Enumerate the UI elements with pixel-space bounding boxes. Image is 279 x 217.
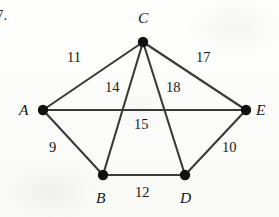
graph-node-e xyxy=(241,105,251,115)
graph-node-a xyxy=(38,105,48,115)
graph-node-c xyxy=(138,37,148,47)
graph-edge-c-e xyxy=(143,42,246,110)
edge-weight-a-c: 11 xyxy=(67,50,81,65)
vertex-label-a: A xyxy=(19,102,28,118)
edge-weight-d-e: 10 xyxy=(222,140,237,155)
graph-figure: 7. CAEBD111714181591012 xyxy=(0,0,279,217)
edge-weight-c-d: 18 xyxy=(166,80,181,95)
graph-node-d xyxy=(180,170,190,180)
vertex-label-d: D xyxy=(180,190,191,206)
edge-weight-c-b: 14 xyxy=(105,80,120,95)
graph-edge-c-b xyxy=(103,42,143,175)
graph-node-b xyxy=(98,170,108,180)
graph-edge-c-d xyxy=(143,42,185,175)
edge-weight-a-e: 15 xyxy=(134,117,149,132)
graph-edge-d-e xyxy=(185,110,246,175)
vertex-label-c: C xyxy=(138,10,148,26)
edge-weight-a-b: 9 xyxy=(49,140,56,155)
vertex-label-e: E xyxy=(256,102,265,118)
vertex-label-b: B xyxy=(96,190,105,206)
graph-edge-a-c xyxy=(43,42,143,110)
edge-weight-c-e: 17 xyxy=(196,50,211,65)
edge-weight-b-d: 12 xyxy=(135,185,150,200)
